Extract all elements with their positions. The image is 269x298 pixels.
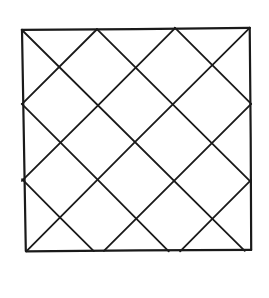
- figure-container: [0, 0, 269, 298]
- diagonal-lattice-figure: [0, 0, 269, 298]
- page-background: [0, 0, 269, 298]
